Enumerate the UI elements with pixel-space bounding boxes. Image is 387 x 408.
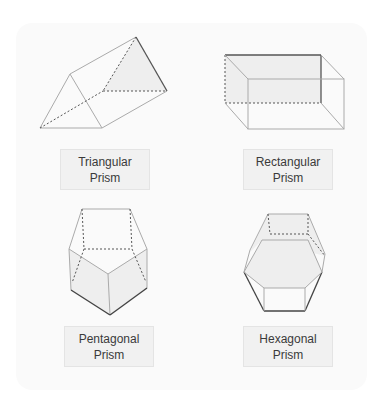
triangular-prism-label: Triangular Prism: [60, 149, 150, 190]
rectangular-prism-figure: [225, 55, 344, 129]
label-line-1: Rectangular: [256, 154, 321, 170]
label-line-2: Prism: [273, 347, 304, 363]
label-line-1: Triangular: [78, 154, 132, 170]
label-line-1: Hexagonal: [259, 331, 316, 347]
label-line-2: Prism: [94, 347, 125, 363]
label-line-2: Prism: [90, 170, 121, 186]
hexagonal-prism-figure: [244, 214, 325, 311]
label-line-1: Pentagonal: [79, 331, 140, 347]
rectangular-prism-label: Rectangular Prism: [243, 149, 333, 190]
pentagonal-prism-label: Pentagonal Prism: [64, 326, 154, 367]
label-line-2: Prism: [273, 170, 304, 186]
pentagonal-prism-figure: [69, 209, 147, 315]
hexagonal-prism-label: Hexagonal Prism: [243, 326, 333, 367]
triangular-prism-figure: [40, 37, 167, 128]
